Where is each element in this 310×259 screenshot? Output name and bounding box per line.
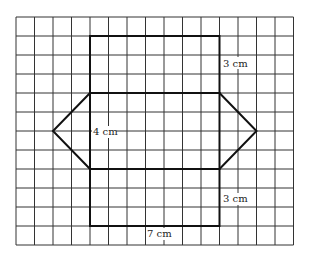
label-width: 7 cm <box>146 228 172 240</box>
label-bottom-height: 3 cm <box>221 193 248 205</box>
top-face <box>90 36 220 93</box>
square-grid <box>16 17 294 245</box>
svg-text:7 cm: 7 cm <box>147 228 172 239</box>
svg-text:4 cm: 4 cm <box>93 126 118 137</box>
bottom-face <box>90 169 220 226</box>
svg-text:3 cm: 3 cm <box>223 58 248 69</box>
label-middle-height: 4 cm <box>92 126 118 138</box>
net-diagram: 3 cm 4 cm 3 cm 7 cm <box>0 0 310 259</box>
svg-text:3 cm: 3 cm <box>223 193 248 204</box>
label-top-height: 3 cm <box>221 57 248 69</box>
